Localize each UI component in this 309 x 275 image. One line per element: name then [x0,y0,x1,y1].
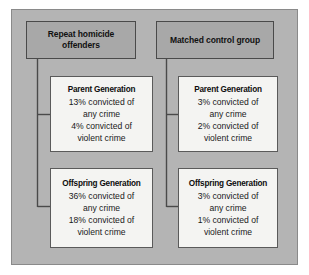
generation-box-left-offspring: Offspring Generation 36% convicted of an… [50,168,153,248]
group-header-line2: offenders [62,40,100,50]
generation-stat-any-crime-label: any crime [209,202,246,214]
generation-box-left-parent: Parent Generation 13% convicted of any c… [50,76,153,152]
diagram-root: Repeat homicide offenders Matched contro… [0,0,309,275]
generation-stat-any-crime-value: 13% convicted of [69,96,134,108]
group-header-label: Repeat homicide offenders [45,29,118,51]
generation-title: Parent Generation [68,84,136,96]
generation-stat-violent-crime-value: 4% convicted of [71,120,132,132]
generation-title: Offspring Generation [189,178,267,190]
generation-stat-violent-crime-label: violent crime [77,226,125,238]
generation-title: Parent Generation [194,84,262,96]
generation-stat-violent-crime-label: violent crime [204,132,252,144]
generation-box-right-offspring: Offspring Generation 3% convicted of any… [178,168,278,248]
generation-stat-violent-crime-value: 18% convicted of [69,214,134,226]
generation-stat-any-crime-label: any crime [83,202,120,214]
generation-stat-any-crime-value: 36% convicted of [69,190,134,202]
group-header-line1: Repeat homicide [48,29,115,39]
group-header-matched-control-group: Matched control group [156,21,274,59]
group-header-repeat-homicide-offenders: Repeat homicide offenders [26,21,136,59]
group-header-label: Matched control group [167,35,263,46]
generation-stat-any-crime-label: any crime [209,108,246,120]
generation-stat-violent-crime-label: violent crime [77,132,125,144]
generation-stat-any-crime-value: 3% convicted of [198,96,259,108]
generation-title: Offspring Generation [62,178,140,190]
group-header-line1: Matched control group [170,35,260,45]
generation-box-right-parent: Parent Generation 3% convicted of any cr… [178,76,278,152]
generation-stat-violent-crime-value: 1% convicted of [198,214,259,226]
generation-stat-violent-crime-value: 2% convicted of [198,120,259,132]
generation-stat-any-crime-value: 3% convicted of [198,190,259,202]
generation-stat-violent-crime-label: violent crime [204,226,252,238]
generation-stat-any-crime-label: any crime [83,108,120,120]
